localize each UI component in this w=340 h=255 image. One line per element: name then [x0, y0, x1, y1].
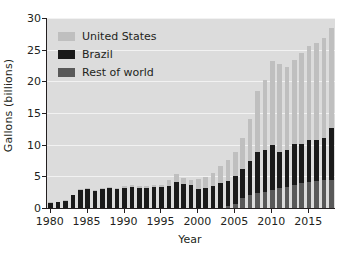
bar — [218, 166, 223, 208]
bar — [152, 185, 157, 208]
bar — [122, 186, 127, 208]
bar-segment — [270, 61, 275, 145]
x-tick-mark — [308, 209, 309, 213]
bar-segment — [218, 166, 223, 184]
bar — [196, 179, 201, 208]
bar — [263, 80, 268, 208]
bar — [189, 180, 194, 209]
bar — [292, 60, 297, 208]
bar-segment — [322, 138, 327, 180]
y-axis-title: Gallons (billions) — [0, 0, 18, 210]
bar-segment — [277, 152, 282, 189]
x-tick-label: 2005 — [220, 215, 248, 228]
bar-segment — [93, 191, 98, 208]
bar-segment — [196, 179, 201, 189]
bar-segment — [307, 140, 312, 182]
x-tick-mark — [50, 209, 51, 213]
bar — [144, 186, 149, 208]
bar-segment — [322, 180, 327, 208]
bar-segment — [307, 46, 312, 140]
bar — [226, 160, 231, 208]
x-tick-label: 2010 — [257, 215, 285, 228]
bar-segment — [240, 169, 245, 198]
bar-segment — [270, 145, 275, 190]
bar-segment — [211, 186, 216, 208]
bar — [181, 178, 186, 208]
bar — [255, 91, 260, 208]
bar-segment — [159, 187, 164, 208]
bar-segment — [78, 190, 83, 208]
bar — [159, 185, 164, 208]
bar-segment — [218, 183, 223, 208]
bar — [48, 202, 53, 208]
bar-segment — [189, 185, 194, 208]
bar-segment — [240, 198, 245, 208]
bar — [56, 202, 61, 208]
bar — [115, 188, 120, 208]
bar-segment — [226, 181, 231, 206]
bar-segment — [174, 174, 179, 182]
y-tick-label: 30 — [17, 12, 41, 25]
bar-segment — [226, 160, 231, 182]
bar — [174, 174, 179, 208]
y-tick-label: 20 — [17, 75, 41, 88]
bar-segment — [233, 204, 238, 208]
x-tick-label: 1980 — [36, 215, 64, 228]
x-tick-mark — [197, 209, 198, 213]
bar-segment — [248, 195, 253, 208]
bar-segment — [277, 188, 282, 208]
chart-legend: United StatesBrazilRest of world — [58, 28, 157, 82]
bar — [211, 173, 216, 208]
bar-segment — [322, 38, 327, 138]
y-tick-mark — [42, 113, 46, 114]
bar-segment — [85, 189, 90, 208]
bar-segment — [299, 144, 304, 183]
bar — [203, 177, 208, 208]
x-tick-label: 1990 — [110, 215, 138, 228]
bar-segment — [292, 144, 297, 185]
legend-item: United States — [58, 28, 157, 44]
x-axis-title: Year — [46, 233, 334, 246]
bar-segment — [263, 80, 268, 150]
legend-swatch — [58, 68, 75, 77]
bar-segment — [307, 182, 312, 208]
bar-segment — [203, 177, 208, 188]
bar-segment — [292, 185, 297, 208]
bar-segment — [71, 195, 76, 208]
y-axis-title-label: Gallons (billions) — [3, 58, 16, 151]
bar-segment — [314, 43, 319, 140]
bar-segment — [122, 188, 127, 208]
bar-segment — [196, 189, 201, 208]
legend-label: United States — [82, 30, 157, 43]
bar-segment — [167, 186, 172, 208]
bar — [167, 180, 172, 208]
bar-segment — [255, 91, 260, 152]
legend-item: Brazil — [58, 46, 157, 62]
bar — [130, 185, 135, 208]
bar-segment — [115, 189, 120, 208]
bar — [240, 138, 245, 208]
legend-swatch — [58, 50, 75, 59]
bar-segment — [248, 161, 253, 196]
bar-segment — [107, 188, 112, 208]
bar — [85, 188, 90, 208]
bar — [285, 67, 290, 208]
legend-item: Rest of world — [58, 64, 157, 80]
bar — [270, 61, 275, 208]
x-tick-label: 1995 — [146, 215, 174, 228]
bar — [71, 195, 76, 208]
bar-segment — [56, 202, 61, 208]
y-tick-mark — [42, 208, 46, 209]
y-tick-mark — [42, 176, 46, 177]
bar-segment — [329, 128, 334, 180]
bar — [329, 28, 334, 209]
bar-segment — [137, 188, 142, 208]
bar-segment — [130, 187, 135, 208]
bar — [322, 38, 327, 208]
y-tick-mark — [42, 145, 46, 146]
bar-segment — [233, 152, 238, 177]
bar-segment — [292, 60, 297, 144]
legend-label: Brazil — [82, 48, 113, 61]
bar-segment — [277, 64, 282, 152]
bar-segment — [203, 188, 208, 208]
